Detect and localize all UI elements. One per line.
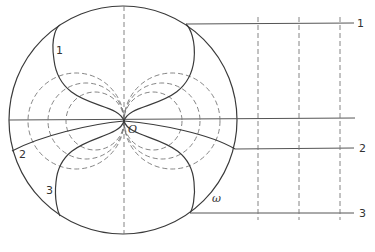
- diagram-canvas: O 1 2 3 ω 1 2 3: [0, 0, 375, 252]
- curve-3-label: 3: [46, 184, 53, 197]
- line-1-label: 1: [357, 17, 364, 30]
- curve-2-right: [124, 121, 235, 149]
- line-1: [186, 23, 354, 24]
- curve-2-label: 2: [19, 148, 26, 161]
- line-3-label: 3: [359, 207, 366, 220]
- curve-3-left: [55, 121, 124, 216]
- dashed-circles-left: [28, 73, 124, 169]
- curve-1-left: [53, 25, 124, 121]
- curve-1-right: [124, 24, 194, 121]
- line-2: [235, 148, 354, 149]
- curve-2-left: [12, 121, 124, 151]
- omega-label: ω: [212, 192, 221, 205]
- curve-1-label: 1: [56, 44, 63, 57]
- dashed-circles-right: [124, 73, 220, 169]
- origin-label: O: [128, 123, 137, 136]
- line-2-label: 2: [359, 142, 366, 155]
